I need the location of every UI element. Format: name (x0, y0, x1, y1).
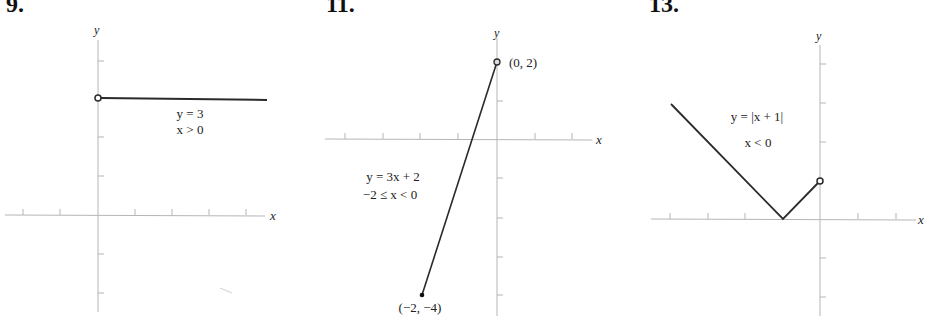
stray-mark (220, 288, 232, 293)
graph-9-line (101, 98, 267, 100)
x-axis (325, 139, 592, 140)
equation-label: y = |x + 1| (731, 109, 783, 124)
graph-13-axes (651, 45, 916, 316)
equation-label: y = 3x + 2 (366, 169, 420, 184)
graph-9-axes (5, 40, 265, 312)
y-axis-label: y (493, 26, 500, 40)
x-axis (5, 215, 265, 216)
graph-11-line (422, 65, 496, 295)
point-label-top: (0, 2) (509, 55, 537, 70)
closed-point-icon (420, 293, 425, 298)
point-label-bottom: (−2, −4) (399, 300, 442, 315)
graphs-canvas: y x y = 3 x > 0 y x (0, 2) (0, 0, 934, 321)
x-axis-label: x (917, 212, 924, 227)
open-circle-icon (494, 59, 500, 65)
domain-label: x > 0 (177, 122, 204, 137)
open-circle-icon (95, 95, 101, 101)
domain-label: x < 0 (745, 135, 772, 150)
x-axis-label: x (269, 208, 276, 223)
equation-label: y = 3 (177, 106, 204, 121)
graph-13: y x y = |x + 1| x < 0 (651, 29, 924, 316)
graph-9: y x y = 3 x > 0 (5, 23, 276, 312)
y-axis-label: y (93, 23, 100, 37)
graph-11: y x (0, 2) (−2, −4) y = 3x + 2 −2 ≤ x < … (325, 26, 602, 316)
graph-11-axes (325, 38, 592, 316)
x-axis-label: x (595, 132, 602, 147)
y-axis-label: y (815, 29, 822, 43)
open-circle-icon (817, 178, 823, 184)
domain-label: −2 ≤ x < 0 (363, 187, 417, 202)
